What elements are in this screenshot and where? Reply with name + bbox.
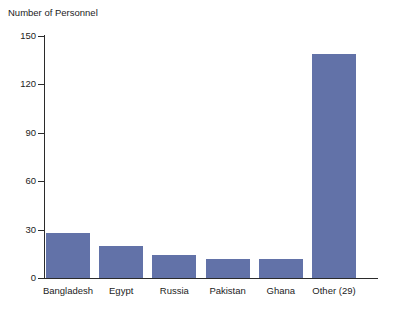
bar [206, 259, 250, 278]
y-axis-tick-label: 30 [6, 225, 36, 235]
y-axis-tick-label: 150 [6, 31, 36, 41]
y-axis-tick-label: 90 [6, 128, 36, 138]
y-axis-tick-label: 120 [6, 79, 36, 89]
bar [152, 255, 196, 278]
y-axis-tick [38, 278, 45, 279]
bar [312, 54, 356, 278]
x-axis-line [44, 278, 378, 279]
y-axis-tick-label: 0 [6, 273, 36, 283]
y-axis-tick-label: 60 [6, 176, 36, 186]
x-axis-tick-label: Other (29) [289, 285, 379, 296]
plot-area [44, 36, 378, 278]
bar [46, 233, 90, 278]
bar [259, 259, 303, 278]
bar-chart-figure: Number of Personnel 0306090120150 Bangla… [0, 0, 398, 310]
bar [99, 246, 143, 278]
y-axis-title: Number of Personnel [8, 7, 98, 19]
